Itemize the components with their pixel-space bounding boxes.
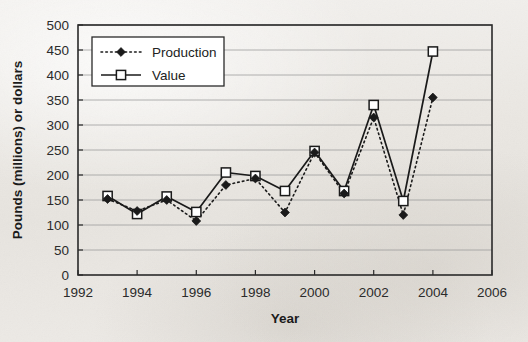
marker-filled-diamond [399, 211, 408, 220]
y-axis-tick-label: 400 [46, 68, 69, 83]
x-axis-tick-label: 1998 [240, 285, 270, 300]
y-axis-tick-label: 200 [46, 168, 69, 183]
x-axis-tick-label: 2000 [300, 285, 330, 300]
chart-canvas: 5004504003503002502001501005001992199419… [0, 0, 528, 342]
y-axis-tick-label: 250 [46, 143, 69, 158]
legend-marker-open-square [116, 70, 125, 79]
legend-label-value: Value [152, 68, 186, 83]
x-axis-tick-label: 2004 [418, 285, 449, 300]
marker-filled-diamond [192, 217, 201, 226]
marker-open-square [221, 168, 230, 177]
x-axis-tick-label: 1996 [181, 285, 211, 300]
y-axis-title: Pounds (millions) or dollars [10, 61, 25, 240]
marker-open-square [428, 47, 437, 56]
x-axis-tick-label: 1994 [122, 285, 153, 300]
x-axis-tick-label: 2002 [359, 285, 389, 300]
y-axis-tick-label: 350 [46, 93, 69, 108]
y-axis-tick-label: 0 [61, 268, 69, 283]
marker-filled-diamond [428, 93, 437, 102]
y-axis-tick-label: 100 [46, 218, 69, 233]
y-axis-tick-label: 50 [54, 243, 69, 258]
marker-filled-diamond [221, 181, 230, 190]
x-axis-title: Year [271, 311, 300, 326]
marker-open-square [369, 100, 378, 109]
x-axis-tick-label: 2006 [477, 285, 507, 300]
marker-open-square [192, 207, 201, 216]
y-axis-tick-label: 150 [46, 193, 69, 208]
marker-open-square [280, 186, 289, 195]
y-axis-tick-label: 300 [46, 118, 69, 133]
legend-group: ProductionValue [92, 37, 224, 86]
legend-label-production: Production [152, 45, 217, 60]
y-axis-tick-label: 450 [46, 43, 69, 58]
marker-open-square [399, 196, 408, 205]
x-axis-tick-label: 1992 [63, 285, 93, 300]
y-axis-tick-label: 500 [46, 18, 69, 33]
line-chart: 5004504003503002502001501005001992199419… [0, 0, 528, 342]
